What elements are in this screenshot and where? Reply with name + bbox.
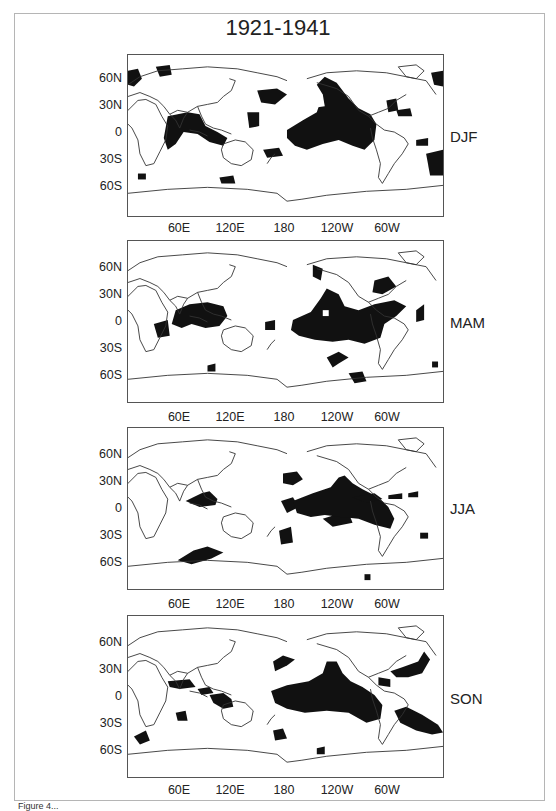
lon-label: 60W	[362, 410, 412, 424]
map-panel-djf	[127, 54, 444, 217]
lat-label: 0	[82, 501, 122, 515]
lon-label: 60W	[362, 221, 412, 235]
lat-label: 30N	[82, 287, 122, 301]
lat-label: 60S	[82, 555, 122, 569]
lat-label: 30N	[82, 474, 122, 488]
lat-label: 60N	[82, 260, 122, 274]
lon-label: 60E	[154, 597, 204, 611]
season-label-djf: DJF	[450, 128, 478, 145]
lon-label: 120W	[312, 410, 362, 424]
season-label-son: SON	[450, 690, 483, 707]
lon-label: 180	[259, 783, 309, 797]
lat-label: 0	[82, 314, 122, 328]
lon-label: 60E	[154, 221, 204, 235]
lon-label: 180	[259, 597, 309, 611]
lon-label: 120W	[312, 783, 362, 797]
figure-caption: Figure 4...	[18, 801, 59, 811]
lon-label: 120W	[312, 221, 362, 235]
map-djf	[128, 55, 443, 216]
lat-label: 30S	[82, 716, 122, 730]
season-label-jja: JJA	[450, 500, 475, 517]
map-panel-jja	[127, 427, 444, 590]
map-panel-mam	[127, 240, 444, 403]
map-mam	[128, 241, 443, 402]
lon-label: 180	[259, 221, 309, 235]
lat-label: 60N	[82, 635, 122, 649]
lat-label: 60N	[82, 71, 122, 85]
map-panel-son	[127, 615, 444, 778]
lat-label: 60S	[82, 179, 122, 193]
map-son	[128, 616, 443, 777]
lon-label: 60E	[154, 783, 204, 797]
lat-label: 60S	[82, 743, 122, 757]
season-label-mam: MAM	[450, 314, 485, 331]
lat-label: 60S	[82, 368, 122, 382]
lon-label: 120E	[205, 783, 255, 797]
figure-title: 1921-1941	[0, 15, 556, 41]
lat-label: 0	[82, 125, 122, 139]
lat-label: 30S	[82, 528, 122, 542]
lon-label: 120E	[205, 597, 255, 611]
lon-label: 120E	[205, 221, 255, 235]
lon-label: 60E	[154, 410, 204, 424]
lat-label: 30S	[82, 152, 122, 166]
lon-label: 120E	[205, 410, 255, 424]
lat-label: 30S	[82, 341, 122, 355]
lon-label: 120W	[312, 597, 362, 611]
lon-label: 60W	[362, 597, 412, 611]
lon-label: 180	[259, 410, 309, 424]
map-jja	[128, 428, 443, 589]
lat-label: 30N	[82, 98, 122, 112]
lat-label: 60N	[82, 447, 122, 461]
lon-label: 60W	[362, 783, 412, 797]
lat-label: 0	[82, 689, 122, 703]
lat-label: 30N	[82, 662, 122, 676]
